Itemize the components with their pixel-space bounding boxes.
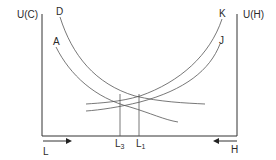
curve-label-k: K bbox=[219, 9, 226, 19]
curve-a bbox=[56, 47, 178, 122]
curve-label-a: A bbox=[53, 37, 60, 47]
left-axis-label: U(C) bbox=[17, 10, 38, 20]
marker-label-l1-sub: 1 bbox=[142, 143, 146, 150]
right-axis-label: U(H) bbox=[243, 10, 264, 20]
curve-k bbox=[86, 19, 222, 104]
curve-label-j: J bbox=[219, 36, 224, 46]
bottom-left-label: L bbox=[43, 147, 49, 157]
curve-label-d: D bbox=[56, 7, 63, 17]
arrow-right-icon bbox=[43, 138, 72, 144]
diagram-canvas bbox=[0, 0, 276, 160]
marker-label-l3-sub: 3 bbox=[121, 143, 125, 150]
bottom-right-label: H bbox=[231, 145, 238, 155]
marker-label-l3: L3 bbox=[115, 139, 124, 150]
curve-j bbox=[86, 44, 220, 111]
marker-label-l1: L1 bbox=[136, 139, 145, 150]
curve-d bbox=[60, 17, 205, 104]
